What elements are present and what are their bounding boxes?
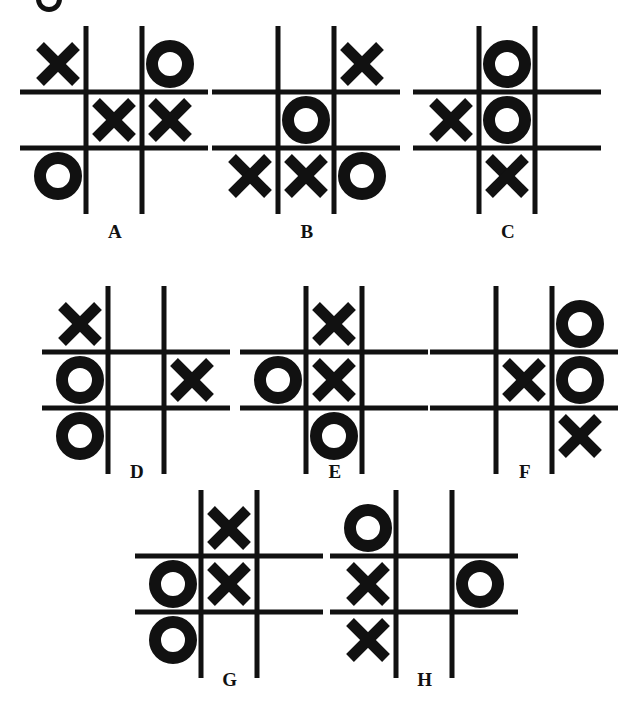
mark-o-r0c0 [350, 510, 386, 546]
board-label-c: C [423, 222, 593, 241]
mark-x-r2c1 [288, 158, 324, 194]
mark-o-r1c0 [62, 362, 98, 398]
mark-o-r2c1 [316, 418, 352, 454]
mark-x-r1c0 [433, 102, 469, 138]
board-label-a: A [30, 222, 200, 241]
cropped-glyph-fragment [36, 0, 62, 12]
mark-x-r0c1 [211, 510, 247, 546]
board-label-e: E [250, 462, 420, 481]
mark-o-r2c0 [40, 158, 76, 194]
board-label-d: D [52, 462, 222, 481]
tic-tac-toe-grid-c [423, 36, 601, 214]
tic-tac-toe-grid-e [250, 296, 428, 474]
mark-x-r0c0 [62, 306, 98, 342]
tic-tac-toe-grid-d [52, 296, 230, 474]
tic-tac-toe-grid-b [222, 36, 400, 214]
mark-x-r0c2 [344, 46, 380, 82]
tic-tac-toe-grid-a [30, 36, 208, 214]
mark-x-r0c1 [316, 306, 352, 342]
tic-tac-toe-grid-h [340, 500, 518, 678]
mark-o-r0c1 [489, 46, 525, 82]
mark-x-r1c2 [152, 102, 188, 138]
mark-x-r2c0 [232, 158, 268, 194]
board-label-g: G [145, 670, 315, 689]
mark-o-r1c1 [288, 102, 324, 138]
mark-x-r1c0 [350, 566, 386, 602]
mark-o-r2c0 [155, 622, 191, 658]
mark-x-r1c1 [211, 566, 247, 602]
tic-tac-toe-grid-g [145, 500, 323, 678]
mark-o-r0c2 [562, 306, 598, 342]
mark-o-r1c2 [562, 362, 598, 398]
figure-canvas: ABCDEFGH [0, 0, 636, 716]
mark-o-r1c1 [489, 102, 525, 138]
mark-x-r1c2 [174, 362, 210, 398]
mark-x-r1c1 [316, 362, 352, 398]
mark-x-r1c1 [506, 362, 542, 398]
tic-tac-toe-grid-f [440, 296, 618, 474]
board-label-b: B [222, 222, 392, 241]
mark-o-r1c0 [155, 566, 191, 602]
board-label-h: H [340, 670, 510, 689]
mark-x-r1c1 [96, 102, 132, 138]
mark-x-r2c0 [350, 622, 386, 658]
mark-o-r0c2 [152, 46, 188, 82]
board-label-f: F [440, 462, 610, 481]
mark-o-r1c0 [260, 362, 296, 398]
mark-o-r2c2 [344, 158, 380, 194]
mark-o-r1c2 [462, 566, 498, 602]
mark-x-r2c1 [489, 158, 525, 194]
mark-x-r2c2 [562, 418, 598, 454]
mark-o-r2c0 [62, 418, 98, 454]
mark-x-r0c0 [40, 46, 76, 82]
